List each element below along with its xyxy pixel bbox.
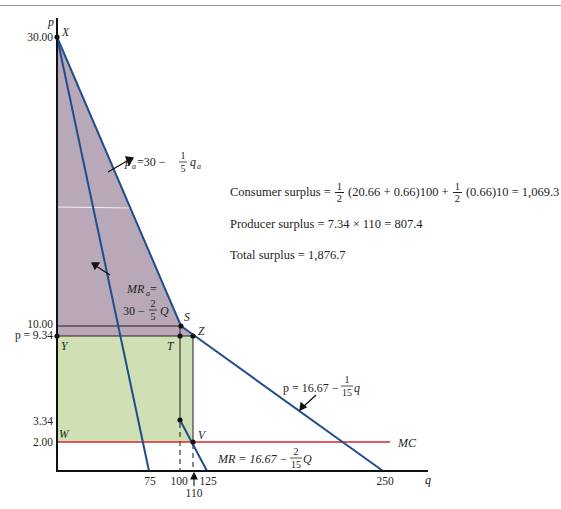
y-tick-2: 2.00 [33, 436, 53, 448]
point-s [178, 323, 183, 328]
y-tick-30: 30.00 [27, 31, 53, 43]
label-x: X [61, 26, 70, 38]
x-tick-75: 75 [144, 475, 156, 487]
x-axis-label: q [425, 473, 431, 487]
y-tick-934: p = 9.34 [15, 329, 53, 342]
svg-text:1: 1 [345, 374, 350, 385]
x-tick-125: 125 [199, 475, 217, 487]
y-axis-label: p [47, 15, 54, 29]
svg-text:q: q [354, 381, 360, 395]
svg-text:1: 1 [181, 150, 186, 161]
svg-text:=: = [150, 282, 157, 296]
label-z: Z [198, 325, 205, 337]
svg-text:15: 15 [291, 459, 301, 470]
svg-text:q: q [190, 155, 196, 169]
svg-text:5: 5 [181, 163, 186, 174]
svg-text:15: 15 [342, 387, 352, 398]
arrow-q110 [191, 473, 197, 486]
fraction-half-2: 1 2 [453, 181, 462, 204]
producer-surplus-equation: Producer surplus = 7.34 × 110 = 807.4 [230, 217, 423, 232]
x-tick-250: 250 [376, 475, 394, 487]
point-z [190, 333, 195, 338]
svg-text:=30 −: =30 − [137, 155, 166, 169]
svg-text:a: a [197, 162, 201, 171]
fraction-half-1: 1 2 [335, 181, 344, 204]
market-demand-line [181, 326, 383, 471]
svg-text:2: 2 [294, 446, 299, 457]
x-tick-110: 110 [186, 487, 203, 499]
point-x [54, 34, 59, 39]
svg-text:30 −: 30 − [123, 304, 145, 318]
point-mr-kink [177, 417, 182, 422]
y-tick-334: 3.34 [33, 415, 53, 427]
svg-text:2: 2 [151, 298, 156, 309]
point-t [177, 333, 182, 338]
label-w: W [59, 428, 70, 440]
svg-text:p = 16.67 −: p = 16.67 − [283, 381, 339, 395]
svg-text:MR = 16.67 −: MR = 16.67 − [217, 452, 288, 466]
svg-text:p: p [124, 155, 131, 169]
consumer-surplus-area [57, 37, 193, 336]
label-s: S [184, 311, 190, 323]
demand-a-label: p a =30 − 1 5 q a [124, 150, 201, 174]
svg-text:a: a [132, 162, 136, 171]
x-tick-100: 100 [170, 475, 188, 487]
point-v [190, 439, 195, 444]
point-y [54, 333, 59, 338]
total-surplus-equation: Total surplus = 1,876.7 [230, 248, 346, 263]
svg-text:Q: Q [303, 452, 312, 466]
svg-text:Q: Q [160, 304, 169, 318]
arrow-market-demand [300, 395, 316, 410]
svg-text:5: 5 [151, 311, 156, 322]
consumer-surplus-equation: Consumer surplus = 1 2 (20.66 + 0.66)100… [230, 181, 559, 204]
mc-label: MC [397, 436, 417, 450]
svg-text:MR: MR [126, 282, 145, 296]
market-demand-label: p = 16.67 − 1 15 q [283, 374, 360, 398]
label-v: V [198, 429, 207, 441]
market-mr-label: MR = 16.67 − 2 15 Q [217, 446, 312, 470]
